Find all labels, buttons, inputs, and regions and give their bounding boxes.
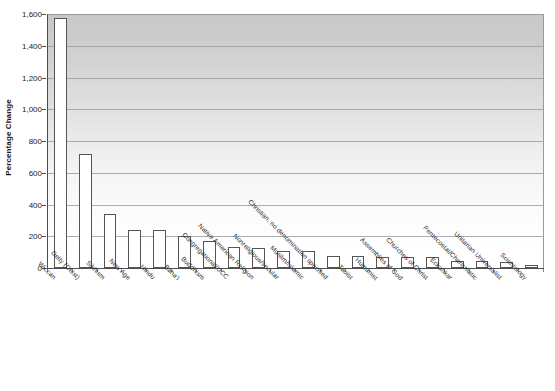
plot-border-right: [543, 14, 544, 269]
bar: [54, 18, 67, 268]
gridline: [48, 109, 544, 110]
y-axis-title: Percentage Change: [0, 0, 16, 275]
y-axis-tick-label: 1,400: [22, 41, 42, 50]
y-axis-tick-label: 400: [29, 200, 42, 209]
x-axis-tick-labels: WiccanDeity (Deist)SikhismNew AgeHinduBa…: [0, 272, 555, 391]
y-axis-tick-label: 800: [29, 137, 42, 146]
bar: [128, 230, 141, 268]
gridline: [48, 205, 544, 206]
y-axis-tick-labels: 02004006008001,0001,2001,4001,600: [16, 0, 46, 286]
y-axis-tick-label: 1,600: [22, 10, 42, 19]
bar: [153, 230, 166, 268]
gridline: [48, 78, 544, 79]
plot-area: [47, 14, 544, 269]
gridline: [48, 141, 544, 142]
y-axis-tick-mark: [42, 141, 46, 142]
y-axis-tick-mark: [42, 173, 46, 174]
y-axis-tick-label: 200: [29, 232, 42, 241]
y-axis-tick-mark: [42, 78, 46, 79]
gridline: [48, 236, 544, 237]
plot-border-top: [47, 14, 544, 15]
y-axis-tick-label: 1,000: [22, 105, 42, 114]
bar-chart: Percentage Change 02004006008001,0001,20…: [0, 0, 555, 391]
bar: [79, 154, 92, 268]
y-axis-line: [47, 14, 48, 269]
y-axis-title-text: Percentage Change: [4, 99, 13, 175]
gridline: [48, 46, 544, 47]
y-axis-tick-label: 600: [29, 168, 42, 177]
y-axis-tick-label: 1,200: [22, 73, 42, 82]
y-axis-tick-mark: [42, 109, 46, 110]
y-axis-tick-mark: [42, 205, 46, 206]
y-axis-tick-mark: [42, 236, 46, 237]
y-axis-tick-mark: [42, 14, 46, 15]
gridline: [48, 173, 544, 174]
y-axis-tick-mark: [42, 46, 46, 47]
